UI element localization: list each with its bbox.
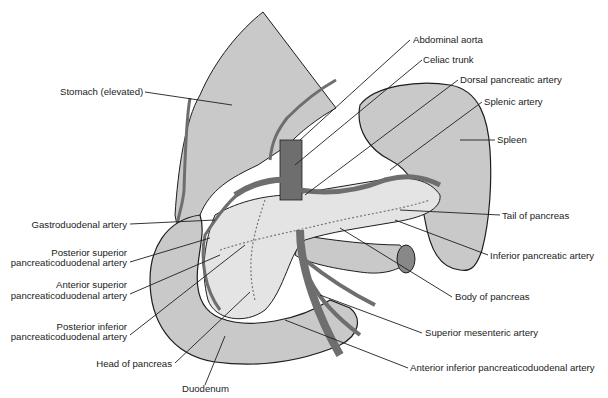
- label-splenic-artery: Splenic artery: [484, 96, 543, 107]
- aorta-shape: [280, 140, 302, 200]
- label-dorsal-pancreatic-artery: Dorsal pancreatic artery: [460, 74, 562, 85]
- label-superior-mesenteric-artery: Superior mesenteric artery: [425, 327, 538, 338]
- label-head-of-pancreas: Head of pancreas: [96, 358, 172, 369]
- label-ant-inf-pd: Anterior inferior pancreaticoduodenal ar…: [410, 362, 595, 373]
- label-duodenum: Duodenum: [182, 383, 229, 394]
- label-post-sup-pd-2: pancreaticoduodenal artery: [11, 257, 127, 268]
- label-celiac-trunk: Celiac trunk: [423, 54, 474, 65]
- label-post-inf-pd-2: pancreaticoduodenal artery: [11, 331, 127, 342]
- label-inferior-pancreatic-artery: Inferior pancreatic artery: [490, 250, 594, 261]
- label-tail-of-pancreas: Tail of pancreas: [502, 210, 569, 221]
- pancreas-arterial-supply-diagram: Stomach (elevated) Abdominal aorta Celia…: [0, 0, 608, 398]
- label-ant-sup-pd-2: pancreaticoduodenal artery: [11, 290, 127, 301]
- label-ant-sup-pd-1: Anterior superior: [56, 279, 128, 290]
- label-stomach: Stomach (elevated): [60, 86, 143, 97]
- label-body-of-pancreas: Body of pancreas: [455, 291, 530, 302]
- label-abdominal-aorta: Abdominal aorta: [413, 34, 484, 45]
- label-gastroduodenal-artery: Gastroduodenal artery: [32, 219, 128, 230]
- label-spleen: Spleen: [497, 134, 527, 145]
